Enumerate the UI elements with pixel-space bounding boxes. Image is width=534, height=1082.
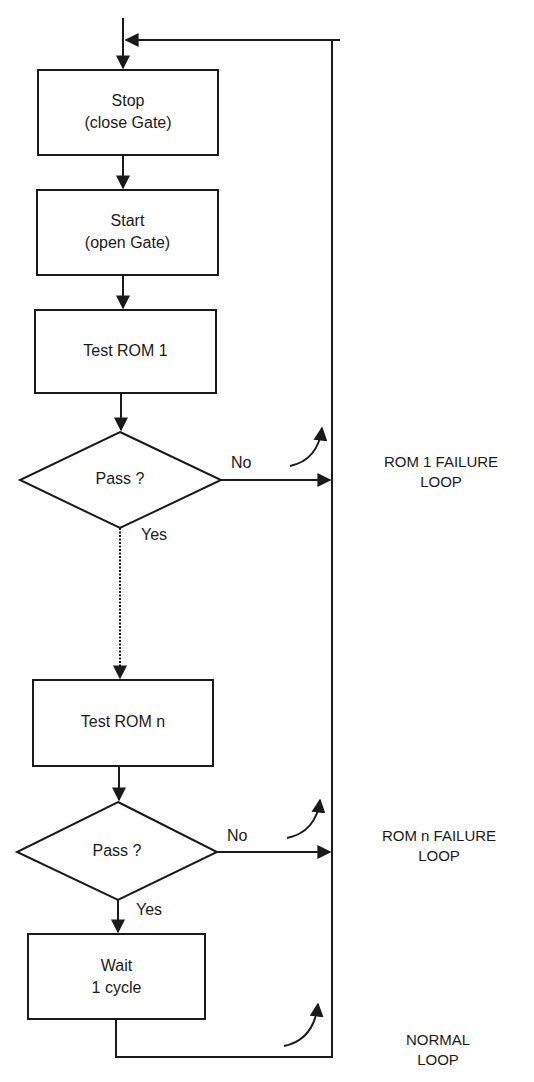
loop-rom1-line2: LOOP bbox=[356, 472, 526, 492]
loop-curve-arrow-normal bbox=[284, 1004, 318, 1046]
start-line1: Start bbox=[37, 210, 218, 232]
wait-line1: Wait bbox=[28, 955, 205, 977]
node-stop-label: Stop (close Gate) bbox=[38, 90, 218, 134]
node-test-rom-n-label: Test ROM n bbox=[33, 711, 213, 733]
stop-line1: Stop bbox=[38, 90, 218, 112]
stop-line2: (close Gate) bbox=[38, 112, 218, 134]
loop-label-normal: NORMAL LOOP bbox=[353, 1030, 523, 1070]
node-wait-label: Wait 1 cycle bbox=[28, 955, 205, 999]
test-rom-1-text: Test ROM 1 bbox=[83, 342, 167, 359]
pass-n-yes-label: Yes bbox=[136, 901, 162, 919]
node-pass-n-label: Pass ? bbox=[17, 840, 217, 862]
loop-normal-line2: LOOP bbox=[353, 1050, 523, 1070]
pass-1-no-label: No bbox=[231, 454, 251, 472]
loop-label-rom1: ROM 1 FAILURE LOOP bbox=[356, 452, 526, 492]
loop-rom1-line1: ROM 1 FAILURE bbox=[356, 452, 526, 472]
loop-romn-line2: LOOP bbox=[354, 846, 524, 866]
start-line2: (open Gate) bbox=[37, 232, 218, 254]
loop-label-romn: ROM n FAILURE LOOP bbox=[354, 826, 524, 866]
pass-n-no-label: No bbox=[227, 827, 247, 845]
loop-curve-arrow-1 bbox=[290, 428, 322, 466]
node-pass-1-label: Pass ? bbox=[20, 468, 220, 490]
pass-1-text: Pass ? bbox=[96, 470, 145, 487]
test-rom-n-text: Test ROM n bbox=[81, 713, 165, 730]
wait-line2: 1 cycle bbox=[28, 977, 205, 999]
node-test-rom-1-label: Test ROM 1 bbox=[35, 340, 216, 362]
loop-curve-arrow-n bbox=[287, 800, 320, 838]
node-start-label: Start (open Gate) bbox=[37, 210, 218, 254]
pass-1-yes-label: Yes bbox=[141, 526, 167, 544]
connector-wait-return bbox=[116, 1019, 332, 1057]
loop-normal-line1: NORMAL bbox=[353, 1030, 523, 1050]
loop-romn-line1: ROM n FAILURE bbox=[354, 826, 524, 846]
flowchart-canvas bbox=[0, 0, 534, 1082]
pass-n-text: Pass ? bbox=[93, 842, 142, 859]
